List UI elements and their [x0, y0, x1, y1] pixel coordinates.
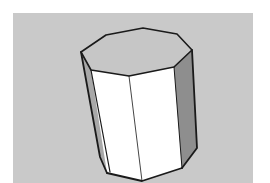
- octagonal-prism: [0, 0, 270, 183]
